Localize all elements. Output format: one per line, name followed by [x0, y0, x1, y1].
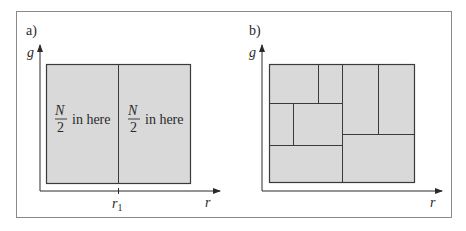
svg-text:in here: in here — [72, 112, 110, 127]
panel-a: a) g r r1 N 2 in here N 2 in here — [26, 23, 220, 213]
svg-text:2: 2 — [57, 120, 64, 135]
svg-text:N: N — [54, 103, 65, 118]
panel-b: b) g r — [249, 23, 442, 210]
svg-text:N: N — [127, 103, 138, 118]
svg-text:2: 2 — [130, 120, 137, 135]
panel-a-label: a) — [26, 23, 37, 39]
panel-b-label: b) — [249, 23, 261, 39]
panel-b-x-axis-label: r — [430, 195, 436, 210]
panel-a-tick-label: r1 — [112, 196, 122, 213]
figure-canvas: a) g r r1 N 2 in here N 2 in here b) g — [0, 0, 466, 231]
panel-b-y-axis-label: g — [249, 45, 256, 60]
panel-a-x-axis-label: r — [205, 195, 211, 210]
svg-text:in here: in here — [145, 112, 183, 127]
panel-a-y-axis-label: g — [27, 45, 34, 60]
